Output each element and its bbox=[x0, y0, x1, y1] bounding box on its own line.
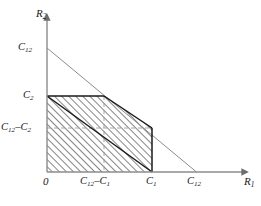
x-tick-label-c12: C12 bbox=[187, 176, 201, 188]
x-tick-label-origin: 0 bbox=[43, 176, 49, 187]
x-tick-label-c12-minus-c1: C12–C1 bbox=[80, 176, 110, 188]
y-tick-label-c2: C2 bbox=[23, 90, 34, 102]
x-axis-label: R1 bbox=[244, 176, 254, 188]
y-tick-label-c12: C12 bbox=[18, 42, 32, 54]
y-axis-label: R2 bbox=[36, 8, 46, 20]
x-tick-label-c1: C1 bbox=[146, 176, 157, 188]
y-tick-label-c12-minus-c2: C12–C2 bbox=[1, 122, 31, 134]
plot-svg bbox=[0, 0, 261, 206]
figure-container: R2 R1 C12 C2 C12–C2 0 C12–C1 C1 C12 bbox=[0, 0, 261, 206]
